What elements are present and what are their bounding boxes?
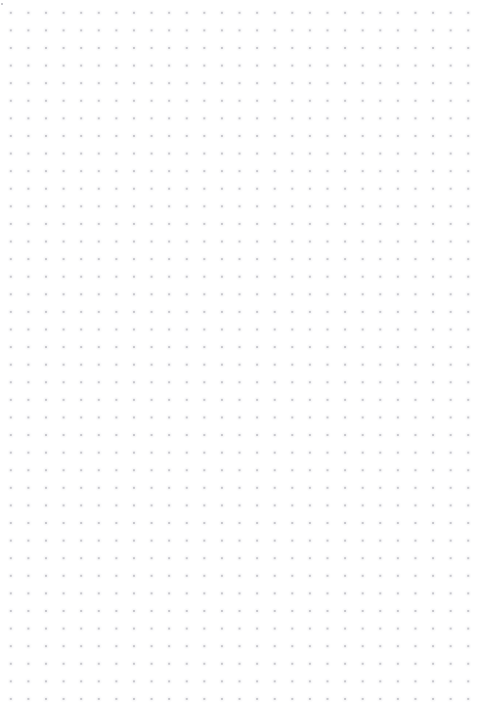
dot-grid-pattern [0,0,480,713]
dot-grid-canvas[interactable] [0,0,480,713]
canvas-content [0,0,1,1]
grid-origin-dot [1,3,3,5]
